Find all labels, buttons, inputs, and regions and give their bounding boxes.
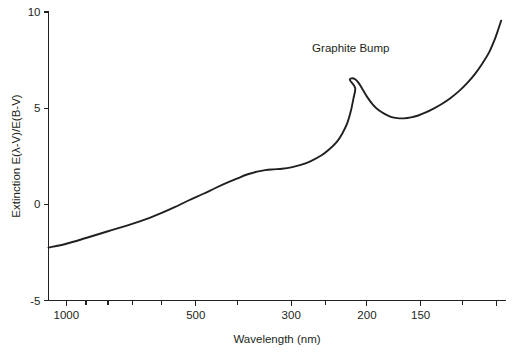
y-tick-label: 0 (34, 198, 40, 210)
graphite-bump-annotation: Graphite Bump (312, 42, 389, 54)
x-tick-label: 150 (411, 309, 430, 321)
x-tick-label: 500 (186, 309, 205, 321)
extinction-curve-figure: 1050-5 1000500300200150 Graphite Bump Wa… (0, 0, 524, 357)
y-tick-label: 10 (28, 6, 41, 18)
y-tick-label: 5 (34, 102, 40, 114)
y-axis-title: Extinction E(λ-V)/E(B-V) (10, 94, 22, 217)
x-tick-label: 200 (357, 309, 376, 321)
x-axis-title: Wavelength (nm) (233, 333, 320, 345)
chart-canvas: 1050-5 1000500300200150 Graphite Bump Wa… (0, 0, 524, 357)
extinction-curve (49, 21, 502, 248)
y-tick-labels: 1050-5 (28, 6, 41, 307)
x-tick-label: 1000 (54, 309, 80, 321)
x-tick-marks (66, 301, 496, 307)
y-tick-label: -5 (30, 295, 40, 307)
x-tick-label: 300 (282, 309, 301, 321)
y-tick-marks (44, 12, 49, 301)
axes-group (48, 12, 506, 301)
x-tick-labels: 1000500300200150 (54, 309, 431, 321)
